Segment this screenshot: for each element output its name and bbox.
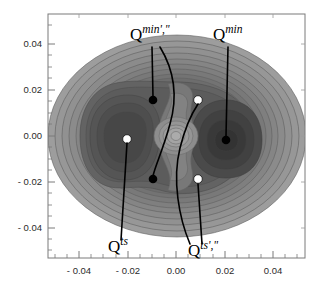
y-tick-label: 0.02 bbox=[24, 84, 43, 95]
marker-q-min bbox=[222, 136, 231, 145]
annotation-base: Q bbox=[108, 237, 120, 256]
y-tick-labels: 0.04 0.02 0.00 - 0.02 - 0.04 bbox=[18, 38, 42, 233]
marker-q-ts-prime-upper bbox=[194, 96, 203, 105]
annotation-base: Q bbox=[130, 25, 142, 44]
y-tick-label: - 0.04 bbox=[18, 222, 42, 233]
leader-q-min-prime-a bbox=[152, 47, 153, 97]
annotation-base: Q bbox=[188, 241, 200, 260]
center-peak-rings bbox=[154, 117, 198, 155]
x-tick-label: - 0.04 bbox=[67, 265, 91, 276]
x-tick-label: 0.02 bbox=[216, 265, 235, 276]
contour-plot-figure: 0.04 0.02 0.00 - 0.02 - 0.04 - 0.04 - 0.… bbox=[0, 0, 320, 294]
contour-field bbox=[48, 35, 306, 237]
annotation-q-ts: Qts bbox=[108, 235, 128, 256]
annotation-superscript: min bbox=[225, 23, 243, 35]
y-tick-label: - 0.02 bbox=[18, 176, 42, 187]
x-tick-labels: - 0.04 - 0.02 0.00 0.02 0.04 bbox=[67, 265, 282, 276]
marker-q-ts-prime-lower bbox=[194, 175, 203, 184]
annotation-superscript: ts'," bbox=[200, 239, 218, 252]
annotation-q-min: Qmin bbox=[213, 23, 243, 44]
annotation-superscript: ts bbox=[120, 235, 128, 247]
annotation-superscript: min'," bbox=[142, 23, 170, 36]
x-tick-label: 0.04 bbox=[264, 265, 283, 276]
marker-q-ts bbox=[123, 135, 132, 144]
annotation-q-ts-prime: Qts'," bbox=[188, 239, 218, 260]
x-tick-label: 0.00 bbox=[167, 265, 186, 276]
x-tick-label: - 0.02 bbox=[116, 265, 140, 276]
y-tick-label: 0.00 bbox=[24, 130, 43, 141]
x-axis-ticks bbox=[55, 251, 297, 258]
y-tick-label: 0.04 bbox=[24, 38, 43, 49]
plot-canvas: 0.04 0.02 0.00 - 0.02 - 0.04 - 0.04 - 0.… bbox=[0, 0, 320, 294]
annotation-base: Q bbox=[213, 25, 225, 44]
